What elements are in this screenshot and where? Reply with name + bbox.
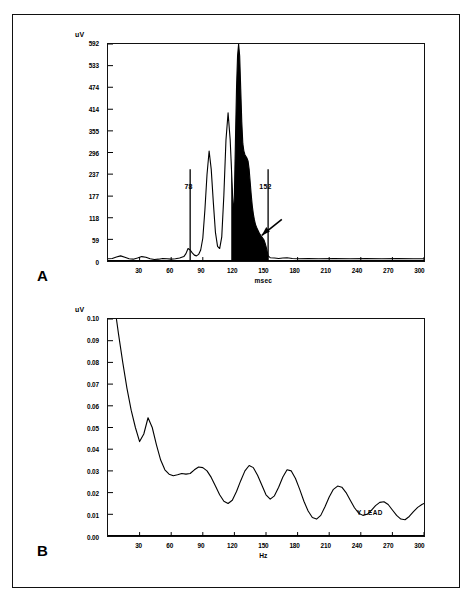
y-tick: 0 bbox=[96, 259, 99, 266]
y-tick: 414 bbox=[89, 105, 99, 112]
x-tick: 210 bbox=[321, 542, 331, 549]
panel-a-plot-surface bbox=[108, 44, 424, 261]
y-tick: 0.07 bbox=[87, 380, 99, 387]
panel-b-spectrum-svg bbox=[108, 319, 424, 536]
y-tick: 355 bbox=[89, 127, 99, 134]
panel-a: uV 592 533 474 414 355 296 237 177 118 5… bbox=[35, 31, 439, 296]
x-tick: 150 bbox=[258, 267, 268, 274]
x-tick: 240 bbox=[352, 267, 362, 274]
y-tick: 59 bbox=[92, 237, 99, 244]
panel-a-waveform-svg bbox=[108, 44, 424, 261]
panel-b-x-axis-title: Hz bbox=[259, 552, 267, 559]
x-tick: 60 bbox=[166, 542, 173, 549]
y-tick: 296 bbox=[89, 149, 99, 156]
x-tick: 240 bbox=[352, 542, 362, 549]
y-tick: 0.06 bbox=[87, 402, 99, 409]
y-tick: 0.00 bbox=[87, 534, 99, 541]
x-tick: 30 bbox=[135, 542, 142, 549]
y-tick: 474 bbox=[89, 83, 99, 90]
figure-outer-frame: uV 592 533 474 414 355 296 237 177 118 5… bbox=[12, 14, 460, 588]
panel-b-plot-surface bbox=[108, 319, 424, 536]
y-tick: 0.01 bbox=[87, 512, 99, 519]
late-potential-arrow-icon bbox=[262, 219, 282, 235]
qrs-offset-marker-label: 152 bbox=[259, 183, 272, 190]
x-tick: 270 bbox=[383, 542, 393, 549]
y-tick: 0.10 bbox=[87, 315, 99, 322]
x-tick: 30 bbox=[135, 267, 142, 274]
x-tick: 120 bbox=[227, 267, 237, 274]
x-tick: 90 bbox=[198, 267, 205, 274]
x-tick: 60 bbox=[166, 267, 173, 274]
y-tick: 592 bbox=[89, 40, 99, 47]
x-tick: 300 bbox=[414, 267, 424, 274]
panel-b-plot-box bbox=[107, 318, 425, 537]
panel-b-y-axis-ticks: 0.10 0.09 0.08 0.07 0.06 0.05 0.04 0.03 … bbox=[53, 306, 99, 571]
y-tick: 0.09 bbox=[87, 336, 99, 343]
panel-b-letter: B bbox=[37, 542, 48, 559]
y-lead-series-label: Y LEAD bbox=[357, 509, 383, 516]
x-tick: 180 bbox=[289, 542, 299, 549]
x-tick: 150 bbox=[258, 542, 268, 549]
y-tick: 0.05 bbox=[87, 424, 99, 431]
y-tick: 0.02 bbox=[87, 490, 99, 497]
panel-b: uV 0.10 0.09 0.08 0.07 0.06 0.05 0.04 0.… bbox=[35, 306, 439, 571]
x-tick: 210 bbox=[321, 267, 331, 274]
panel-a-plot-box bbox=[107, 43, 425, 262]
panel-a-x-axis-title: msec bbox=[255, 277, 273, 284]
y-tick: 0.08 bbox=[87, 358, 99, 365]
qrs-onset-marker-label: 78 bbox=[184, 183, 192, 190]
y-tick: 0.04 bbox=[87, 446, 99, 453]
panel-a-letter: A bbox=[37, 267, 48, 284]
panel-a-y-axis-ticks: 592 533 474 414 355 296 237 177 118 59 0 bbox=[53, 31, 99, 296]
y-tick: 0.03 bbox=[87, 468, 99, 475]
x-tick: 120 bbox=[227, 542, 237, 549]
x-tick: 180 bbox=[289, 267, 299, 274]
x-tick: 300 bbox=[414, 542, 424, 549]
y-tick: 118 bbox=[89, 215, 99, 222]
x-tick: 270 bbox=[383, 267, 393, 274]
y-tick: 237 bbox=[89, 171, 99, 178]
y-tick: 533 bbox=[89, 61, 99, 68]
y-tick: 177 bbox=[89, 193, 99, 200]
x-tick: 90 bbox=[198, 542, 205, 549]
